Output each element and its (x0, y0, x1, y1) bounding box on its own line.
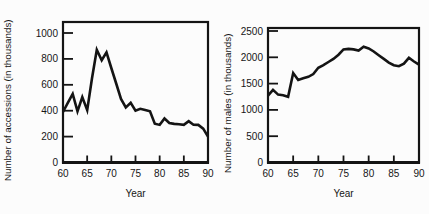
y-tick-label: 1000 (241, 104, 264, 115)
x-tick-label: 70 (313, 168, 325, 179)
y-tick-label: 400 (41, 105, 58, 116)
males-data-line (268, 47, 419, 97)
accessions-data-line (63, 50, 208, 137)
x-tick-label: 80 (363, 168, 375, 179)
x-axis-title: Year (333, 188, 354, 199)
y-tick-label: 1500 (241, 78, 264, 89)
x-tick-label: 90 (413, 168, 425, 179)
y-tick-label: 600 (41, 79, 58, 90)
plot-frame (63, 22, 208, 163)
x-tick-label: 65 (82, 168, 94, 179)
charts-canvas: 0200400600800100060657075808590Number of… (0, 0, 429, 214)
y-tick-label: 0 (52, 157, 58, 168)
y-tick-label: 0 (257, 157, 263, 168)
x-tick-label: 70 (106, 168, 118, 179)
y-tick-label: 200 (41, 131, 58, 142)
x-tick-label: 90 (202, 168, 214, 179)
accessions-chart: 0200400600800100060657075808590Number of… (2, 19, 214, 199)
x-tick-label: 65 (288, 168, 300, 179)
y-tick-label: 500 (246, 131, 263, 142)
y-tick-label: 2000 (241, 52, 264, 63)
y-axis-title: Number of males (in thousands) (222, 34, 233, 173)
x-axis-title: Year (125, 188, 146, 199)
x-tick-label: 75 (130, 168, 142, 179)
x-tick-label: 60 (262, 168, 274, 179)
x-tick-label: 85 (178, 168, 190, 179)
dual-line-chart-figure: 0200400600800100060657075808590Number of… (0, 0, 429, 214)
y-tick-label: 800 (41, 53, 58, 64)
x-tick-label: 85 (388, 168, 400, 179)
males-chart: 0500100015002000250060657075808590Number… (222, 26, 425, 200)
y-axis-title: Number of accessions (in thousands) (2, 19, 13, 181)
x-tick-label: 80 (154, 168, 166, 179)
x-tick-label: 60 (57, 168, 69, 179)
x-tick-label: 75 (338, 168, 350, 179)
y-tick-label: 1000 (36, 28, 59, 39)
y-tick-label: 2500 (241, 26, 264, 37)
